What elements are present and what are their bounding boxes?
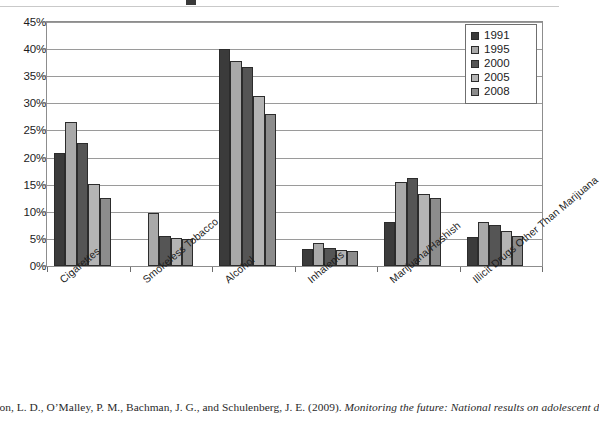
y-axis-tick-label: 30% [2,97,46,109]
bar [54,153,65,266]
x-axis-tick-mark [377,267,378,272]
caption-title-italic: Monitoring the future: National results … [345,401,599,413]
caption-prefix: nston, L. D., O’Malley, P. M., Bachman, … [0,401,345,413]
bar [395,182,406,266]
bar [148,213,159,266]
x-axis-tick-mark [460,267,461,272]
bar [219,49,230,266]
y-axis-tick-label: 5% [2,233,46,245]
bar [302,249,313,266]
x-axis-tick-mark [295,267,296,272]
legend[interactable]: 1991 1995 2000 2005 2008 [465,24,537,104]
legend-label-2005: 2005 [484,72,510,84]
legend-swatch-2000 [471,60,479,68]
legend-swatch-1995 [471,46,479,54]
bar [77,143,88,266]
title-divider-rule [0,6,559,7]
cropped-title-fragment [186,0,196,5]
legend-swatch-1991 [471,32,479,40]
y-axis-tick-label: 45% [2,16,46,28]
x-axis [46,267,543,273]
y-axis-tick-label: 25% [2,124,46,136]
bar [100,198,111,266]
legend-label-1991: 1991 [484,30,510,42]
y-axis-tick-label: 10% [2,206,46,218]
y-axis-tick-label: 20% [2,152,46,164]
legend-label-2000: 2000 [484,58,510,70]
legend-item[interactable]: 1991 [471,29,531,42]
bar [347,251,358,266]
legend-item[interactable]: 2005 [471,71,531,84]
x-axis-tick-mark [47,267,48,272]
y-axis-tick-label: 40% [2,43,46,55]
legend-label-2008: 2008 [484,86,510,98]
x-axis-tick-mark [130,267,131,272]
y-axis-tick-label: 0% [2,260,46,272]
source-caption: nston, L. D., O’Malley, P. M., Bachman, … [0,401,586,413]
bar [265,114,276,266]
legend-item[interactable]: 2008 [471,85,531,98]
x-axis-tick-mark [212,267,213,272]
bar [253,96,264,266]
bar [242,67,253,266]
bar [65,122,76,266]
y-axis: 45%40%35%30%25%20%15%10%5%0% [0,21,46,267]
legend-swatch-2005 [471,74,479,82]
bar [478,222,489,266]
y-axis-tick-label: 15% [2,179,46,191]
legend-item[interactable]: 1995 [471,43,531,56]
legend-label-1995: 1995 [484,44,510,56]
legend-swatch-2008 [471,88,479,96]
x-axis-tick-mark [542,267,543,272]
bar [384,222,395,266]
y-axis-tick-label: 35% [2,70,46,82]
bar [230,61,241,267]
bar [467,237,478,266]
legend-item[interactable]: 2000 [471,57,531,70]
